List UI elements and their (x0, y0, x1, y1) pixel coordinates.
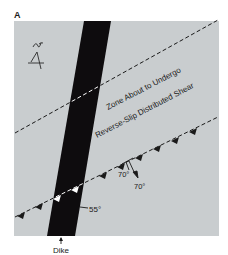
strike-dip-label-1: 70° (118, 170, 129, 179)
dike-dip-label: 55° (89, 205, 101, 214)
dike-label: Dike (53, 246, 70, 255)
strike-dip-label-2: 70° (134, 182, 145, 191)
dike-pointer-arrow-icon (59, 237, 63, 244)
geologic-diagram: A Zone About to (0, 0, 228, 255)
panel-label: A (14, 10, 21, 20)
